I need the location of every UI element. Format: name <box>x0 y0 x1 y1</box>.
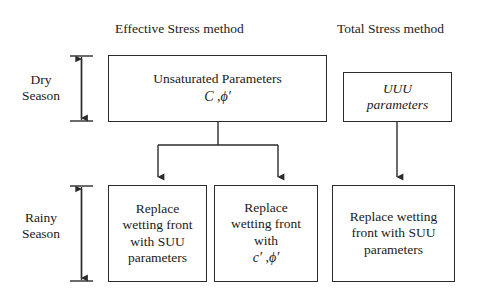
column-header-total-stress: Total Stress method <box>337 21 444 37</box>
measure-arrow-dry-season <box>70 56 93 121</box>
season-label-rainy-line2: Season <box>12 226 70 242</box>
box-unsaturated-parameters: Unsaturated Parameters C ,ϕ′ <box>108 55 327 122</box>
box-replace-c-phi-line4: c′ ,ϕ′ <box>253 249 280 267</box>
connector-branch-effective <box>158 122 278 177</box>
box-replace-suu-left: Replace wetting front with SUU parameter… <box>108 185 207 282</box>
box-replace-c-phi-line3: with <box>254 233 278 250</box>
box-unsaturated-line1: Unsaturated Parameters <box>153 71 282 88</box>
box-replace-c-phi-line1: Replace <box>244 200 287 217</box>
column-header-effective-stress: Effective Stress method <box>115 21 244 37</box>
box-uuu-line1: UUU <box>383 81 412 98</box>
box-replace-suu-right-line2: front with SUU <box>352 225 436 242</box>
box-unsaturated-line2: C ,ϕ′ <box>204 88 231 106</box>
season-label-dry-line1: Dry <box>12 72 70 88</box>
box-replace-suu-left-line3: with SUU <box>130 234 184 251</box>
box-replace-suu-left-line4: parameters <box>128 250 187 267</box>
box-uuu-parameters: UUU parameters <box>343 72 452 122</box>
box-replace-suu-right-line1: Replace wetting <box>350 209 437 226</box>
box-replace-suu-left-line1: Replace <box>136 201 179 218</box>
box-replace-suu-right-line3: parameters <box>364 242 423 259</box>
measure-arrow-rainy-season <box>70 186 93 281</box>
box-uuu-line2: parameters <box>367 97 429 114</box>
box-replace-c-phi-line2: wetting front <box>231 216 301 233</box>
box-replace-suu-right: Replace wetting front with SUU parameter… <box>332 185 455 282</box>
season-label-dry: Dry Season <box>12 72 70 104</box>
box-replace-suu-left-line2: wetting front <box>122 217 192 234</box>
box-replace-c-phi: Replace wetting front with c′ ,ϕ′ <box>214 185 318 282</box>
season-label-rainy: Rainy Season <box>12 210 70 242</box>
season-label-rainy-line1: Rainy <box>12 210 70 226</box>
season-label-dry-line2: Season <box>12 88 70 104</box>
flowchart-diagram: Effective Stress method Total Stress met… <box>0 0 492 295</box>
